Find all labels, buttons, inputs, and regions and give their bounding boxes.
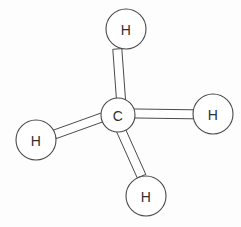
hydrogen-right-label: H (208, 107, 218, 123)
atom-hydrogen-left: H (16, 120, 56, 160)
hydrogen-bottom-label: H (141, 189, 151, 205)
carbon-center-label: C (113, 108, 123, 124)
atom-hydrogen-bottom: H (126, 176, 166, 216)
atom-group: H H H H C (16, 9, 233, 216)
hydrogen-top-label: H (121, 22, 131, 38)
methane-molecule-diagram: H H H H C (0, 0, 241, 227)
bond-carbon-hydrogen-left (53, 113, 105, 139)
molecule-diagram-canvas: H H H H C (0, 0, 241, 227)
atom-hydrogen-top: H (106, 9, 146, 49)
atom-hydrogen-right: H (193, 94, 233, 134)
bond-carbon-hydrogen-bottom (116, 127, 146, 178)
atom-carbon-center: C (101, 98, 135, 132)
hydrogen-left-label: H (31, 133, 41, 149)
